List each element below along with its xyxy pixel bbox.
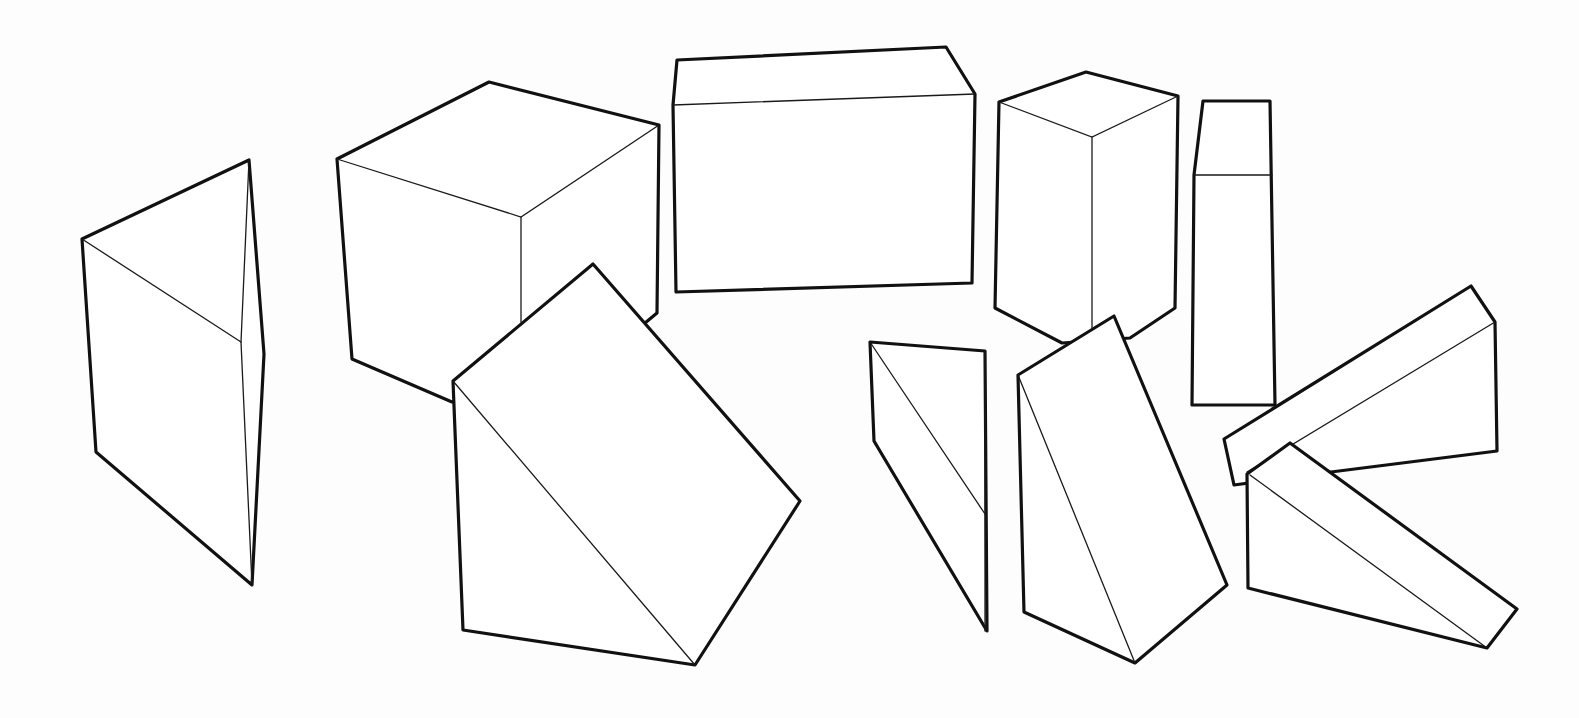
prism-left-outline: [82, 160, 264, 585]
box-tall-outline: [995, 72, 1178, 343]
box-wide: [673, 47, 975, 292]
box-narrow: [1192, 101, 1275, 405]
wedge-lower-right: [1247, 443, 1517, 648]
wedge-small: [870, 342, 987, 631]
box-narrow-outline: [1192, 101, 1275, 405]
box-wide-outline: [673, 47, 975, 292]
prism-left: [82, 160, 264, 585]
wedge-small-outline: [870, 342, 987, 631]
wedge-lower-right-outline: [1247, 443, 1517, 648]
box-tall: [995, 72, 1178, 343]
solids-drawing: [0, 0, 1579, 718]
drawing-canvas: [0, 0, 1579, 718]
